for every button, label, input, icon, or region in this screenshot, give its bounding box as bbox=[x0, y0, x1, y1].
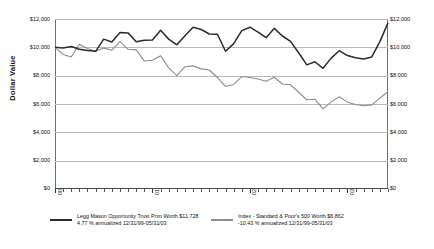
x-tick-label: 00 bbox=[58, 189, 64, 195]
y-tick-label: $6,000 bbox=[14, 102, 50, 108]
y-tick-label: $10,000 bbox=[390, 45, 410, 51]
legend-text-legg-mason: Legg Mason Opportunity Trust Prim Worth … bbox=[77, 213, 198, 228]
y-tick-label: $12,000 bbox=[14, 17, 50, 23]
y-tick-label: $4,000 bbox=[390, 130, 407, 136]
series-lines bbox=[55, 19, 388, 189]
y-tick-label: $0 bbox=[14, 186, 50, 192]
y-tick-label: $10,000 bbox=[14, 45, 50, 51]
series-line-legg-mason bbox=[55, 23, 388, 68]
chart-legend: Legg Mason Opportunity Trust Prim Worth … bbox=[0, 213, 434, 243]
y-tick-label: $12,000 bbox=[390, 17, 410, 23]
legend-line-2: 4.77 % annualized 12/31/99-05/31/03 bbox=[77, 220, 198, 227]
chart-page: Dollar Value $12,000 $10,000 $8,000 $6,0… bbox=[0, 0, 434, 249]
y-tick-label: $4,000 bbox=[14, 130, 50, 136]
x-tick-label: 01 bbox=[155, 189, 161, 195]
plot-area bbox=[55, 19, 388, 189]
legend-line-1: Legg Mason Opportunity Trust Prim Worth … bbox=[77, 213, 198, 220]
y-axis-labels-right: $12,000 $10,000 $8,000 $6,000 $4,000 $2,… bbox=[390, 0, 432, 249]
y-tick-label: $0 bbox=[390, 186, 396, 192]
x-tick-minor bbox=[388, 189, 389, 192]
legend-line-2: -10.43 % annualized 12/31/99-05/31/03 bbox=[238, 220, 344, 227]
y-tick-label: $2,000 bbox=[14, 158, 50, 164]
x-axis-labels: 00010203 bbox=[55, 191, 388, 211]
y-tick-label: $8,000 bbox=[390, 73, 407, 79]
legend-swatch-legg-mason bbox=[50, 219, 72, 221]
y-tick-label: $6,000 bbox=[390, 102, 407, 108]
y-tick-label: $2,000 bbox=[390, 158, 407, 164]
legend-swatch-sp500 bbox=[211, 219, 233, 221]
x-tick-label: 03 bbox=[350, 189, 356, 195]
legend-line-1: Index - Standard & Poor's 500 Worth $6,8… bbox=[238, 213, 344, 220]
y-tick-label: $8,000 bbox=[14, 73, 50, 79]
x-tick-label: 02 bbox=[252, 189, 258, 195]
y-axis-labels-left: $12,000 $10,000 $8,000 $6,000 $4,000 $2,… bbox=[14, 0, 50, 249]
legend-text-sp500: Index - Standard & Poor's 500 Worth $6,8… bbox=[238, 213, 344, 228]
